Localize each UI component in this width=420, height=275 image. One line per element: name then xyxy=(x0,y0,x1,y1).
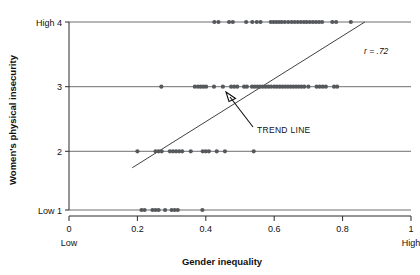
data-point xyxy=(204,85,208,89)
trend-line-arrow xyxy=(226,92,253,127)
data-point xyxy=(212,85,216,89)
y-tick-labels: High 4 3 2 Low 1 xyxy=(36,18,62,216)
correlation-label: r = .72 xyxy=(364,46,389,56)
data-point xyxy=(252,149,256,153)
y-tick-label-4: High 4 xyxy=(36,18,62,28)
data-point xyxy=(302,85,306,89)
data-point xyxy=(216,20,220,24)
data-point xyxy=(320,20,324,24)
data-point xyxy=(335,85,339,89)
gridlines xyxy=(69,22,411,210)
trend-line xyxy=(132,22,365,168)
x-tick-label-0.2: 0.2 xyxy=(131,224,144,234)
data-point xyxy=(306,85,310,89)
x-axis-high-label: High xyxy=(402,238,420,248)
y-tick-label-1: Low 1 xyxy=(38,206,62,216)
data-point xyxy=(189,149,193,153)
data-point xyxy=(157,208,161,212)
data-point xyxy=(160,149,164,153)
data-point xyxy=(163,208,167,212)
y-tick-label-2: 2 xyxy=(57,147,62,157)
data-point xyxy=(180,149,184,153)
data-point xyxy=(349,20,353,24)
data-point xyxy=(235,85,239,89)
y-tick-label-3: 3 xyxy=(57,82,62,92)
data-point xyxy=(135,149,139,153)
data-point xyxy=(176,208,180,212)
axes xyxy=(69,22,411,216)
x-axis-low-label: Low xyxy=(61,238,78,248)
data-point xyxy=(212,20,216,24)
data-point xyxy=(324,85,328,89)
x-tick-label-0.8: 0.8 xyxy=(336,224,349,234)
data-point xyxy=(244,20,248,24)
data-point xyxy=(245,85,249,89)
data-point xyxy=(200,208,204,212)
data-point xyxy=(227,20,231,24)
y-axis-title: Women's physical insecurity xyxy=(7,54,18,185)
x-tick-label-0.4: 0.4 xyxy=(200,224,213,234)
data-point xyxy=(250,20,254,24)
x-tick-label-0: 0 xyxy=(66,224,71,234)
data-point xyxy=(215,149,219,153)
arrow-head-icon xyxy=(226,92,236,102)
data-point xyxy=(221,85,225,89)
x-tick-labels: 0 0.2 0.4 0.6 0.8 1 xyxy=(66,224,413,234)
data-point xyxy=(330,20,334,24)
data-point xyxy=(334,20,338,24)
data-point xyxy=(255,20,259,24)
x-axis-title: Gender inequality xyxy=(182,256,263,267)
data-point xyxy=(159,85,163,89)
data-point xyxy=(258,20,262,24)
y-tickmarks xyxy=(65,22,69,210)
data-point xyxy=(223,149,227,153)
data-point xyxy=(207,149,211,153)
x-tick-label-0.6: 0.6 xyxy=(268,224,281,234)
arrow-shaft xyxy=(230,97,253,127)
scatter-chart: High 4 3 2 Low 1 Women's physical insecu… xyxy=(0,0,420,275)
x-tickmarks xyxy=(69,216,411,221)
x-tick-label-1: 1 xyxy=(408,224,413,234)
data-point xyxy=(142,208,146,212)
trend-line-callout-label: TREND LINE xyxy=(257,125,311,135)
plot-svg: High 4 3 2 Low 1 Women's physical insecu… xyxy=(0,0,420,275)
data-point xyxy=(231,20,235,24)
